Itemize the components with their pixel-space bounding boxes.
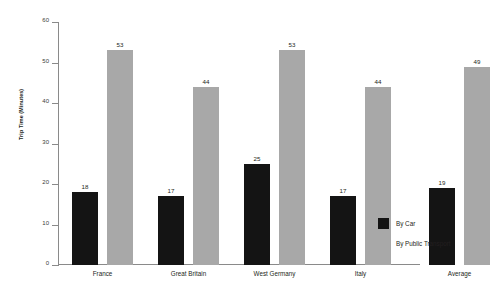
y-axis-tick-label: 20 <box>42 179 49 185</box>
legend-label: By Public Transport <box>396 240 451 247</box>
bar: 53 <box>279 50 305 265</box>
y-axis-tick-label: 10 <box>42 220 49 226</box>
bar-value-label: 44 <box>203 78 210 85</box>
legend-item: By Public Transport <box>378 238 451 249</box>
x-axis-category-label: West Germany <box>254 270 296 277</box>
y-axis-tick-label: 30 <box>42 139 49 145</box>
bar: 25 <box>244 164 270 265</box>
bar: 17 <box>158 196 184 265</box>
bar-value-label: 44 <box>375 78 382 85</box>
bar-value-label: 53 <box>289 41 296 48</box>
y-axis-tick-label: 0 <box>46 260 49 266</box>
bar-value-label: 49 <box>474 58 481 65</box>
bar: 49 <box>464 67 490 265</box>
bar: 18 <box>72 192 98 265</box>
y-axis-tick-label: 40 <box>42 98 49 104</box>
chart-legend: By CarBy Public Transport <box>378 218 451 258</box>
bar-value-label: 18 <box>82 183 89 190</box>
bar-value-label: 17 <box>340 187 347 194</box>
x-axis-category-label: Italy <box>355 270 367 277</box>
bar: 44 <box>193 87 219 265</box>
plot-area: 0102030405060 18531744255317441949 <box>58 22 420 265</box>
legend-label: By Car <box>396 220 415 227</box>
x-axis-category-label: Great Britain <box>171 270 206 277</box>
x-axis-category-label: France <box>93 270 113 277</box>
legend-swatch-icon <box>378 218 389 229</box>
legend-item: By Car <box>378 218 451 229</box>
bar: 53 <box>107 50 133 265</box>
bar-value-label: 19 <box>439 179 446 186</box>
x-axis-category-label: Average <box>448 270 471 277</box>
bar-value-label: 25 <box>254 155 261 162</box>
y-axis-tick-label: 50 <box>42 58 49 64</box>
bar-value-label: 53 <box>117 41 124 48</box>
bar-value-label: 17 <box>168 187 175 194</box>
bar: 17 <box>330 196 356 265</box>
legend-swatch-icon <box>378 238 389 249</box>
y-axis-tick-label: 60 <box>42 17 49 23</box>
y-axis-title: Trip Time (Minutes) <box>18 30 24 140</box>
bars-layer: 18531744255317441949 <box>58 22 420 265</box>
y-axis-tick-mark <box>52 265 59 266</box>
